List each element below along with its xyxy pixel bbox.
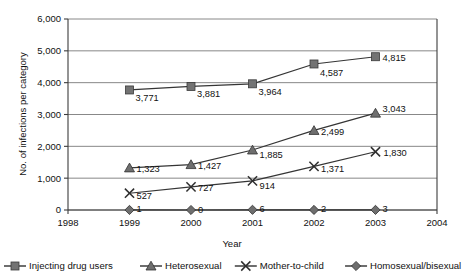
y-tick-label: 2,000	[37, 141, 61, 152]
data-label: 914	[260, 181, 276, 191]
y-tick-label: 4,000	[37, 77, 61, 88]
data-label: 4,815	[383, 53, 406, 63]
data-label: 1	[137, 204, 142, 214]
data-label: 0	[198, 205, 203, 215]
data-label: 2	[321, 204, 326, 214]
legend-item-label: Homosexual/bisexual	[370, 260, 461, 271]
x-tick-label: 2003	[365, 217, 386, 228]
y-tick-label: 6,000	[37, 13, 61, 24]
y-tick-label: 0	[56, 204, 61, 215]
x-tick-label: 2000	[180, 217, 201, 228]
data-label: 1,885	[260, 150, 283, 160]
data-point-marker	[310, 60, 318, 68]
data-label: 1,323	[137, 164, 160, 174]
data-label: 1,427	[198, 161, 221, 171]
y-tick-label: 1,000	[37, 173, 61, 184]
x-tick-label: 2001	[242, 217, 263, 228]
data-point-marker	[372, 53, 380, 61]
data-label: 3,964	[259, 87, 282, 97]
data-label: 1,830	[384, 148, 407, 158]
line-chart: 01,0002,0003,0004,0005,0006,000 19981999…	[0, 0, 468, 280]
legend-item-label: Injecting drug users	[29, 260, 113, 271]
x-tick-label: 1998	[57, 217, 78, 228]
data-label: 527	[137, 191, 153, 201]
data-label: 2,499	[321, 127, 344, 137]
x-axis-title: Year	[222, 238, 241, 249]
data-point-marker	[249, 80, 257, 88]
data-label: 6	[260, 204, 265, 214]
legend-item-label: Heterosexual	[165, 260, 222, 271]
legend-item-label: Mother-to-child	[260, 260, 324, 271]
x-tick-label: 2002	[303, 217, 324, 228]
y-tick-label: 3,000	[37, 109, 61, 120]
legend-marker-icon	[11, 262, 19, 270]
y-axis-title: No. of infections per category	[17, 52, 28, 176]
y-tick-label: 5,000	[37, 45, 61, 56]
data-label: 3,771	[136, 93, 159, 103]
data-label: 3	[383, 204, 388, 214]
chart-container: 01,0002,0003,0004,0005,0006,000 19981999…	[0, 0, 468, 280]
data-label: 727	[198, 183, 214, 193]
data-label: 1,371	[321, 164, 344, 174]
data-point-marker	[126, 86, 134, 94]
data-label: 4,587	[320, 68, 343, 78]
x-tick-label: 2004	[426, 217, 447, 228]
data-label: 3,043	[383, 104, 406, 114]
data-point-marker	[187, 82, 195, 90]
x-tick-label: 1999	[119, 217, 140, 228]
data-label: 3,881	[197, 89, 220, 99]
